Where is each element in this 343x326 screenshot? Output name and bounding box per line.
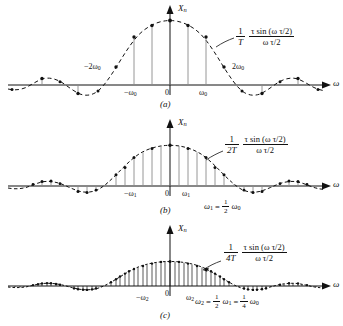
tick-minus-w0-a: −ω0 — [124, 88, 137, 97]
y-axis-label-c: Xn — [178, 223, 187, 233]
y-axis-label-a: Xn — [178, 3, 187, 13]
panel-c-formula: 1 4T τ sin (ω τ/2) ω τ/2 — [224, 242, 287, 263]
panel-b-leader-line — [206, 151, 223, 160]
tick-w2-c: ω2 — [186, 293, 194, 302]
panel-b-coefficient: 1 2T — [225, 134, 239, 155]
panel-a-formula: 1 T τ sin (ω τ/2) ω τ/2 — [236, 26, 294, 47]
panel-a-coefficient: 1 T — [236, 26, 245, 47]
tick-w0-a: ω0 — [199, 88, 207, 97]
tick-zero-b: 0 — [165, 189, 169, 198]
y-axis-label-b: Xn — [178, 117, 187, 127]
x-axis-label-a: ω — [333, 78, 339, 88]
x-axis-label-b: ω — [333, 179, 339, 189]
panel-b-caption: (b) — [160, 205, 171, 215]
panel-a: Xn ω 1 T τ sin (ω τ/2) ω τ/2 −2ω0 −ω0 0 … — [0, 0, 343, 108]
tick-minus-w2-c: −ω2 — [136, 293, 149, 302]
panel-b-note: ω1 = 1 2 ω0 — [204, 198, 240, 215]
tick-zero-a: 0 — [165, 88, 169, 97]
panel-c-coefficient: 1 4T — [224, 242, 238, 263]
panel-b-formula: 1 2T τ sin (ω τ/2) ω τ/2 — [225, 134, 288, 155]
panel-c-caption: (c) — [160, 310, 170, 320]
x-axis-label-c: ω — [333, 279, 339, 289]
panel-a-leader-line — [216, 38, 234, 47]
panel-c-note: ω2 = 1 2 ω1 = 1 4 ω0 — [195, 293, 259, 310]
tick-w1-b: ω1 — [182, 189, 190, 198]
tick-minus-2w0-a: −2ω0 — [84, 62, 101, 71]
panel-a-plot — [0, 0, 343, 108]
panel-b-axes — [8, 119, 331, 196]
tick-minus-w1-b: −ω1 — [124, 189, 137, 198]
panel-c-leader-line — [203, 261, 221, 272]
panel-c: Xn ω 1 4T τ sin (ω τ/2) ω τ/2 −ω2 0 ω2 (… — [0, 218, 343, 326]
panel-b-sinc: τ sin (ω τ/2) ω τ/2 — [243, 134, 288, 155]
panel-b-plot — [0, 108, 343, 218]
tick-zero-c: 0 — [165, 289, 169, 298]
panel-c-sinc: τ sin (ω τ/2) ω τ/2 — [242, 242, 287, 263]
panel-a-axes — [8, 5, 331, 95]
panel-a-sinc: τ sin (ω τ/2) ω τ/2 — [249, 26, 294, 47]
panel-c-plot — [0, 218, 343, 326]
tick-2w0-a: 2ω0 — [232, 62, 244, 71]
panel-b: Xn ω 1 2T τ sin (ω τ/2) ω τ/2 −ω1 0 ω1 (… — [0, 108, 343, 218]
